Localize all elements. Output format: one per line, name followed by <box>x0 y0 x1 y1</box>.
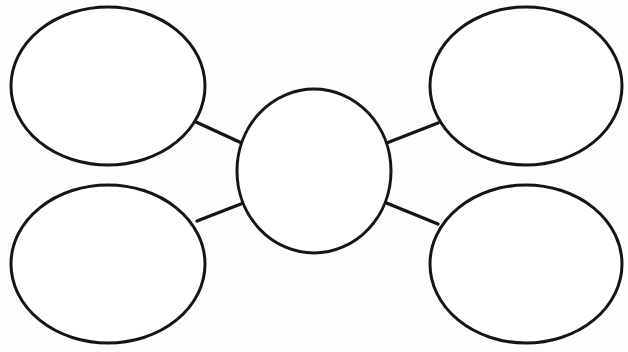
node-ellipse-top-left[interactable] <box>11 7 205 165</box>
outer-node-top-right-group[interactable] <box>430 7 622 165</box>
outer-node-bottom-right-group[interactable] <box>430 185 622 343</box>
outer-node-top-left-group[interactable] <box>11 7 205 165</box>
connector-bottom-left <box>197 202 246 221</box>
connector-top-right <box>384 123 438 144</box>
outer-node-bottom-left-group[interactable] <box>11 185 205 343</box>
node-ellipse-bottom-right[interactable] <box>430 185 622 343</box>
concept-web-diagram <box>0 0 628 352</box>
node-ellipse-bottom-left[interactable] <box>11 185 205 343</box>
node-ellipse-top-right[interactable] <box>430 7 622 165</box>
center-node-group[interactable] <box>237 89 391 253</box>
connector-bottom-right <box>384 202 438 224</box>
connector-top-left <box>196 122 246 145</box>
diagram-canvas <box>0 0 628 352</box>
node-ellipse-center[interactable] <box>237 89 391 253</box>
